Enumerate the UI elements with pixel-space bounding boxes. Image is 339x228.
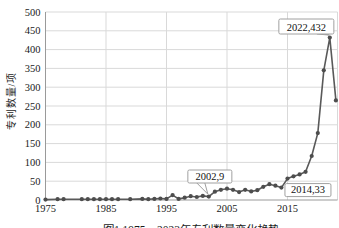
data-point-1998 xyxy=(183,196,187,200)
data-point-2022 xyxy=(328,36,332,40)
data-point-1985 xyxy=(104,197,108,201)
y-tick-label: 350 xyxy=(25,63,41,74)
y-axis-title: 专利数量/项 xyxy=(3,72,18,131)
data-point-1975 xyxy=(43,198,47,202)
data-point-1992 xyxy=(146,197,150,201)
data-point-1981 xyxy=(80,197,84,201)
data-point-2000 xyxy=(195,195,199,199)
y-tick-label: 500 xyxy=(25,7,41,18)
data-point-2012 xyxy=(267,182,271,186)
x-tick-label: 2015 xyxy=(277,203,298,214)
data-point-2019 xyxy=(310,154,314,158)
data-point-1982 xyxy=(86,197,90,201)
x-tick-label: 1975 xyxy=(35,203,56,214)
x-tick-label: 1995 xyxy=(156,203,177,214)
data-point-1986 xyxy=(110,197,114,201)
y-tick-label: 100 xyxy=(25,157,41,168)
annotation-callout xyxy=(197,183,208,194)
y-tick-label: 300 xyxy=(25,82,41,93)
x-tick-label: 2005 xyxy=(217,203,238,214)
y-tick-label: 450 xyxy=(25,25,41,36)
data-point-2023 xyxy=(334,98,338,102)
data-point-2006 xyxy=(231,188,235,192)
data-point-1994 xyxy=(158,196,162,200)
line-chart-canvas: 2002,92014,332022,4320501001502002503003… xyxy=(0,0,339,228)
data-point-1978 xyxy=(62,197,66,201)
data-point-2008 xyxy=(243,188,247,192)
data-point-1996 xyxy=(171,193,175,197)
data-point-1983 xyxy=(92,197,96,201)
annotation-label: 2014,33 xyxy=(291,184,325,195)
data-point-2018 xyxy=(304,170,308,174)
data-point-2021 xyxy=(322,68,326,72)
y-tick-label: 250 xyxy=(25,101,41,112)
data-point-1987 xyxy=(116,197,120,201)
data-point-2001 xyxy=(201,194,205,198)
annotation-label: 2022,432 xyxy=(287,22,326,33)
data-point-2004 xyxy=(219,188,223,192)
annotation-label: 2002,9 xyxy=(195,171,224,182)
data-point-2009 xyxy=(249,189,253,193)
y-tick-label: 200 xyxy=(25,119,41,130)
data-point-1993 xyxy=(152,197,156,201)
data-point-2011 xyxy=(261,185,265,189)
x-tick-label: 1985 xyxy=(96,203,117,214)
data-point-2002 xyxy=(207,195,211,199)
data-point-2016 xyxy=(291,174,295,178)
data-point-2013 xyxy=(273,184,277,188)
data-point-2010 xyxy=(255,188,259,192)
patent-trend-figure: 2002,92014,332022,4320501001502002503003… xyxy=(0,0,339,228)
data-point-2020 xyxy=(316,131,320,135)
data-point-1989 xyxy=(128,197,132,201)
y-tick-label: 400 xyxy=(25,44,41,55)
data-point-2007 xyxy=(237,190,241,194)
data-point-2017 xyxy=(298,172,302,176)
data-point-2015 xyxy=(285,177,289,181)
data-point-1995 xyxy=(164,197,168,201)
y-tick-label: 50 xyxy=(30,176,41,187)
figure-caption-cropped: 图1 1975—2023年专利数量变化趋势 xyxy=(45,221,337,228)
data-point-1999 xyxy=(189,194,193,198)
data-point-1991 xyxy=(140,197,144,201)
y-tick-label: 150 xyxy=(25,138,41,149)
data-point-1984 xyxy=(98,197,102,201)
data-point-2003 xyxy=(213,190,217,194)
data-point-1977 xyxy=(56,197,60,201)
data-point-2014 xyxy=(279,186,283,190)
data-point-2005 xyxy=(225,187,229,191)
data-point-1997 xyxy=(177,197,181,201)
